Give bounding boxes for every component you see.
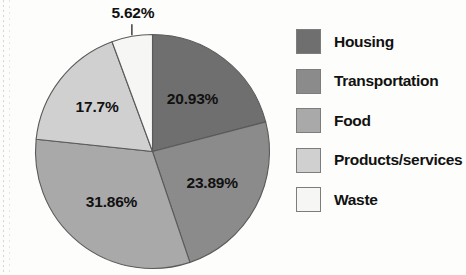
- legend-label: Transportation: [334, 72, 438, 90]
- legend-label: Housing: [334, 33, 394, 51]
- legend-item[interactable]: Food: [296, 101, 466, 141]
- legend-swatch: [296, 69, 321, 94]
- pie-slice-value-label: 17.7%: [76, 98, 119, 115]
- legend-swatch: [296, 108, 321, 133]
- legend-label: Food: [334, 112, 371, 130]
- legend-item[interactable]: Products/services: [296, 141, 466, 181]
- legend-item[interactable]: Waste: [296, 180, 466, 220]
- legend-swatch: [296, 29, 321, 54]
- pie-slice-value-label: 5.62%: [111, 4, 154, 21]
- legend-label: Waste: [334, 191, 378, 209]
- pie-slice-value-label: 23.89%: [187, 174, 239, 191]
- pie-chart-figure: 20.93%23.89%31.86%17.7%5.62% HousingTran…: [0, 0, 466, 275]
- legend-label: Products/services: [334, 151, 462, 169]
- legend-swatch: [296, 187, 321, 212]
- pie-slice-value-label: 20.93%: [167, 90, 219, 107]
- legend-item[interactable]: Housing: [296, 22, 466, 62]
- pie-slice-value-label: 31.86%: [86, 193, 138, 210]
- legend-item[interactable]: Transportation: [296, 62, 466, 102]
- chart-legend: HousingTransportationFoodProducts/servic…: [296, 22, 466, 220]
- pie-slices: [36, 35, 270, 269]
- legend-swatch: [296, 148, 321, 173]
